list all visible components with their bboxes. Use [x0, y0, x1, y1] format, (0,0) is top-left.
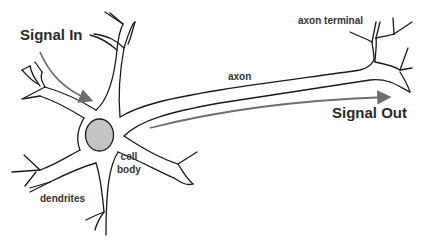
dendrites-label: dendrites	[40, 193, 85, 204]
dendrite-top	[90, 12, 135, 117]
axon-terminal-label: axon terminal	[298, 15, 363, 26]
axon-terminal-outline	[350, 18, 412, 92]
dendrite-lower-left	[12, 155, 50, 192]
signal-out-label: Signal Out	[332, 104, 407, 121]
cell-body-label-line2: body	[117, 163, 141, 176]
cell-body-label-line1: cell	[117, 150, 141, 163]
neuron-diagram: Signal In Signal Out axon axon terminal …	[0, 0, 434, 247]
nucleus	[86, 119, 114, 151]
signal-in-arrow	[40, 52, 90, 100]
axon-label: axon	[228, 71, 251, 82]
signal-in-label: Signal In	[20, 26, 83, 43]
cell-body-label: cell body	[117, 150, 141, 176]
dendrite-upper-left	[22, 62, 96, 118]
